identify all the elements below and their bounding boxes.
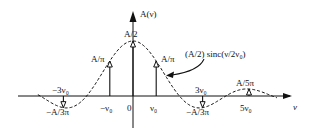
- impulse-position-label: −3ν₀: [52, 85, 69, 95]
- impulse-value-label: A/5π: [236, 78, 255, 88]
- impulse-arrowhead-icon: [154, 61, 159, 67]
- impulse-value-label: A/π: [161, 54, 175, 64]
- impulse-arrowhead-icon: [131, 41, 136, 47]
- impulse-value-label: A/2: [124, 29, 138, 39]
- curve-label-pointer-arrowhead-icon: [166, 72, 174, 79]
- origin-label: 0: [127, 103, 132, 113]
- impulse-value-label: −A/3π: [186, 107, 210, 117]
- x-axis-arrow-icon: [283, 93, 292, 99]
- impulse-arrowhead-icon: [247, 89, 252, 95]
- impulse-position-label: ν₀: [150, 103, 157, 113]
- spectrum-diagram: A(ν) ν 0 (A/2) sinc(ν/2ν₀) A/2 A/π A/π −…: [0, 0, 311, 138]
- x-axis-label: ν: [293, 102, 297, 112]
- impulse-value-label: A/π: [91, 54, 105, 64]
- y-axis-label: A(ν): [140, 9, 157, 19]
- impulse-position-label: −ν₀: [100, 103, 112, 113]
- impulse-position-label: 5ν₀: [240, 103, 252, 113]
- impulse-position-label: 3ν₀: [195, 85, 207, 95]
- curve-label: (A/2) sinc(ν/2ν₀): [185, 49, 246, 59]
- y-axis-arrow-icon: [130, 11, 137, 22]
- impulse-value-label: −A/3π: [46, 107, 70, 117]
- impulse-arrowhead-icon: [107, 61, 112, 67]
- curve-label-pointer: [172, 59, 204, 75]
